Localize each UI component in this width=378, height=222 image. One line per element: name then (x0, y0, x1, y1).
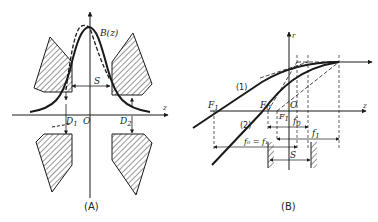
pole-piece-upper-right (112, 33, 152, 95)
ray-2-label: (2) (240, 121, 251, 130)
r-axis-label: r (292, 32, 296, 40)
pole-hatch-right (311, 142, 317, 168)
origin-label: O (83, 116, 91, 126)
pole-piece-lower-right (112, 134, 152, 195)
f1-distance-label: f1 (311, 128, 320, 140)
ray-1-label: (1) (236, 83, 247, 92)
d1-label: D1 (65, 116, 78, 128)
z-axis-label: z (162, 104, 167, 112)
panel-a-caption: (A) (84, 201, 99, 212)
origin-label-b: O (290, 100, 298, 110)
pole-piece-lower-left (36, 134, 72, 192)
curve-label: B(z) (99, 28, 119, 38)
figure-canvas: B(z) S z O D1 D2 (A) (0, 0, 378, 222)
pole-hatch-left (268, 142, 274, 168)
panel-b-caption: (B) (281, 201, 296, 212)
gap-label: S (94, 76, 100, 86)
ray-1 (193, 62, 339, 128)
f1-small-label: F1 (278, 112, 289, 123)
z-axis-label-b: z (362, 102, 367, 110)
d2-label: D2 (119, 116, 132, 128)
panel-b: r z (1) (2) F1 F0 O F1 f0 f1 f₀ = f₁ S (… (193, 32, 372, 212)
f1-focal-point-label: F1 (207, 100, 219, 112)
panel-a: B(z) S z O D1 D2 (A) (12, 12, 168, 212)
gap-label-b: S (290, 150, 296, 160)
f0-minus-f1-label: f₀ = f₁ (243, 137, 268, 146)
